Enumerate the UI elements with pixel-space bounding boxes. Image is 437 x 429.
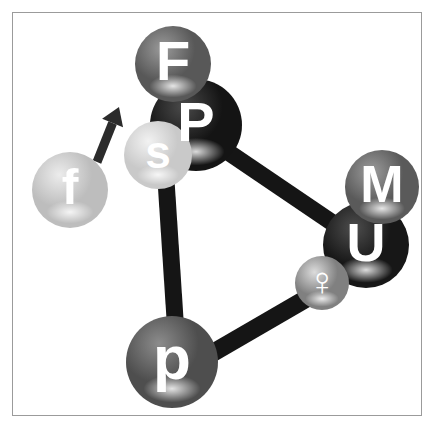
atom-sphere-venus-gloss (305, 291, 338, 307)
bond-s-p (165, 165, 176, 334)
atom-sphere-p-gloss (143, 375, 200, 403)
figure-root: fPUFpsM♀ (0, 0, 437, 429)
direction-arrow (97, 107, 123, 162)
arrow-layer (97, 107, 123, 162)
atom-sphere-f-gloss (46, 201, 93, 224)
atom-sphere-M-gloss (359, 197, 405, 219)
molecule-scene (0, 0, 437, 429)
bond-p-venus (204, 293, 316, 358)
arrow-shaft (97, 123, 113, 162)
atom-sphere-s-gloss (137, 165, 179, 185)
atom-sphere-F-gloss (149, 75, 196, 98)
